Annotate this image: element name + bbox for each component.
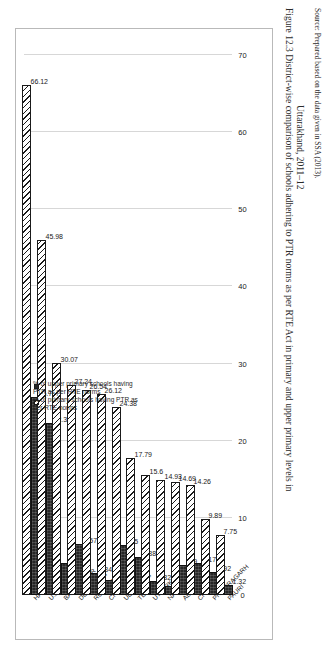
bar-primary <box>97 394 106 595</box>
bar-group: 9.892.92 <box>202 55 217 595</box>
axis-tick-label: 70 <box>233 51 253 60</box>
axis-tick-label: 60 <box>233 128 253 137</box>
axis-tick-label: 20 <box>233 436 253 445</box>
bar-primary <box>82 390 91 595</box>
chart-rotation-wrapper: 70605040302010066.1225.7HARIDWAR45.9822.… <box>16 29 274 641</box>
bar-primary <box>141 475 150 595</box>
figure-caption-line2: Uttarakhand, 2011–12 <box>295 105 305 190</box>
plot-area: 70605040302010066.1225.7HARIDWAR45.9822.… <box>24 55 232 595</box>
axis-tick-label: 50 <box>233 205 253 214</box>
bar-primary <box>156 480 165 595</box>
axis-tick-label: 30 <box>233 359 253 368</box>
chart-figure: 70605040302010066.1225.7HARIDWAR45.9822.… <box>15 28 273 640</box>
bar-primary <box>52 363 61 595</box>
axis-tick-label: 10 <box>233 513 253 522</box>
value-label-primary: 7.75 <box>224 528 238 535</box>
bar-group: 7.751.32 <box>217 55 232 595</box>
figure-source-note: Source: Prepared based on the data given… <box>313 8 322 178</box>
axis-tick-label: 40 <box>233 282 253 291</box>
figure-caption-line1: Figure 12.3 District-wise comparison of … <box>284 8 294 492</box>
bar-group: 14.264.17 <box>187 55 202 595</box>
